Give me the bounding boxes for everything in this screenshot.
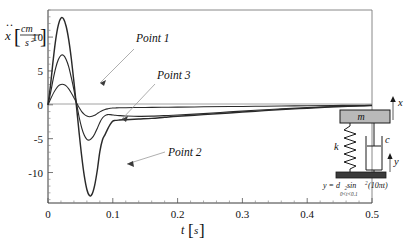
y-tick-label: -10 — [28, 167, 43, 179]
y-axis-tick-labels: 1050-5-10 — [28, 31, 43, 178]
formula-condition: 0<t<0.1 — [340, 191, 358, 197]
y-displacement-arrow: y — [387, 153, 399, 172]
x-displacement-arrow: x — [390, 96, 403, 120]
y-axis-unit-denominator: s — [25, 37, 29, 48]
arrowhead-point1-icon — [100, 80, 106, 86]
spring-label: k — [334, 141, 339, 152]
figure-root: 00.10.20.30.40.5 1050-5-10 x ·· [ cm s 2… — [0, 0, 412, 249]
arrowhead-point2-icon — [127, 161, 134, 167]
y-axis-unit-denominator-exponent: 2 — [31, 36, 35, 44]
y-axis-ticks — [48, 10, 53, 200]
mass-label: m — [357, 111, 364, 122]
curve-point-1 — [48, 55, 372, 140]
curve-group — [48, 18, 372, 196]
x-tick-label: 0.3 — [236, 208, 250, 220]
y-tick-label: 5 — [38, 65, 44, 77]
spring-coil-icon — [344, 123, 356, 172]
damper-element: c — [366, 123, 390, 173]
y-tick-label: 0 — [38, 99, 44, 111]
formula-argument: (10πt) — [368, 181, 388, 190]
y-arrow-label: y — [393, 156, 399, 167]
x-axis-ticks — [48, 198, 372, 203]
annotation-point3: Point 3 — [156, 69, 191, 81]
x-tick-label: 0 — [45, 208, 51, 220]
x-arrow-label: x — [397, 97, 403, 108]
y-arrowhead-icon — [387, 153, 392, 159]
mass-rect — [340, 110, 390, 123]
x-axis-unit: s — [194, 224, 198, 236]
x-tick-label: 0.4 — [300, 208, 314, 220]
y-axis-unit-numerator: cm — [21, 23, 33, 34]
x-arrowhead-icon — [390, 96, 396, 102]
mass-block: m — [340, 110, 390, 123]
x-tick-label: 0.5 — [365, 208, 379, 220]
y-axis-label-double-dot-icon: ·· — [6, 18, 14, 32]
x-axis-label: t [ s ] — [181, 221, 205, 240]
damper-label: c — [385, 134, 390, 145]
formula-lhs: y = d — [322, 181, 341, 190]
bracket-close-icon: ] — [40, 25, 47, 47]
spring-element: k — [334, 123, 356, 172]
y-axis-label: x ·· [ cm s 2 ] — [4, 18, 47, 48]
bracket-open-icon: [ — [14, 25, 21, 47]
formula-sin: sin — [347, 181, 356, 190]
x-tick-label: 0.2 — [171, 208, 185, 220]
figure-svg: 00.10.20.30.40.5 1050-5-10 x ·· [ cm s 2… — [0, 0, 412, 249]
x-axis-label-variable: t — [181, 223, 185, 237]
x-bracket-close-icon: ] — [199, 221, 205, 240]
base-plate — [336, 172, 386, 178]
y-tick-label: -5 — [34, 133, 44, 145]
base-excitation-formula: y = d 2 sin 2 (10πt) 0<t<0.1 — [322, 180, 388, 198]
curve-point-3 — [48, 84, 372, 116]
annotation-point2: Point 2 — [167, 146, 202, 158]
annotation-point1: Point 1 — [135, 32, 170, 44]
leader-line-point1 — [100, 49, 134, 83]
x-axis-tick-labels: 00.10.20.30.40.5 — [45, 208, 379, 220]
x-tick-label: 0.1 — [106, 208, 120, 220]
leader-line-point3 — [122, 84, 155, 119]
schematic-diagram: x m k c — [322, 96, 403, 197]
